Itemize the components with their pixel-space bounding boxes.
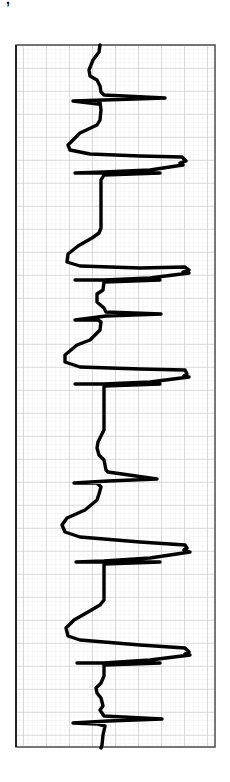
ecg-strip <box>0 0 230 782</box>
